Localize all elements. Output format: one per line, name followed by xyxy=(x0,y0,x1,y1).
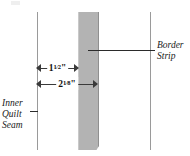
inner-quilt-seam-label-line2: Quilt xyxy=(2,109,23,120)
dimension-label-1: 11⁄2" xyxy=(47,61,69,74)
inner-quilt-seam-label: Inner Quilt Seam xyxy=(2,98,23,131)
border-strip-label: Border Strip xyxy=(157,40,184,62)
border-strip-leader-line xyxy=(88,50,155,51)
dimension-unit-1: " xyxy=(61,63,66,73)
dimension-label-2: 21⁄8" xyxy=(56,77,78,90)
outer-edge-line xyxy=(150,12,151,150)
inner-quilt-seam-label-line1: Inner xyxy=(2,98,23,109)
arrow-left-icon xyxy=(36,80,41,88)
arrow-right-icon xyxy=(93,80,98,88)
inner-quilt-seam-label-line3: Seam xyxy=(2,120,23,131)
border-strip-label-line2: Strip xyxy=(157,51,184,62)
arrow-left-icon xyxy=(36,64,41,72)
dimension-measure-1: 11⁄2" xyxy=(37,63,78,74)
dimension-measure-2: 21⁄8" xyxy=(37,79,97,90)
arrow-right-icon xyxy=(74,64,79,72)
dimension-unit-2: " xyxy=(71,79,76,89)
scan-artifact xyxy=(11,1,20,5)
inner-quilt-seam-leader-line xyxy=(30,111,38,112)
border-strip-label-line1: Border xyxy=(157,40,184,51)
diagram-canvas: Border Strip Inner Quilt Seam 11⁄2" 21⁄8… xyxy=(0,0,190,156)
